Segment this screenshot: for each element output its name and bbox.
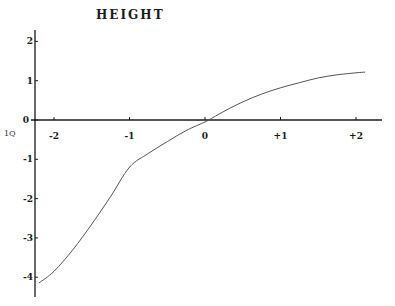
x-tick-label: -2 <box>49 131 59 141</box>
y-tick-label: 0 <box>23 115 29 125</box>
y-tick-label: -2 <box>23 194 33 204</box>
line-chart: -2-10+1+2210-1-2-3-4 <box>0 0 395 306</box>
y-tick-label: -3 <box>23 233 33 243</box>
y-tick-label: -4 <box>23 272 33 282</box>
height-curve <box>39 72 365 283</box>
x-tick-label: -1 <box>125 131 135 141</box>
y-tick-label: 1 <box>27 76 33 86</box>
x-tick-label: +1 <box>274 131 288 141</box>
y-tick-label: 2 <box>27 36 33 46</box>
y-tick-label: -1 <box>23 154 33 164</box>
x-tick-label: +2 <box>349 131 363 141</box>
x-tick-label: 0 <box>202 131 208 141</box>
